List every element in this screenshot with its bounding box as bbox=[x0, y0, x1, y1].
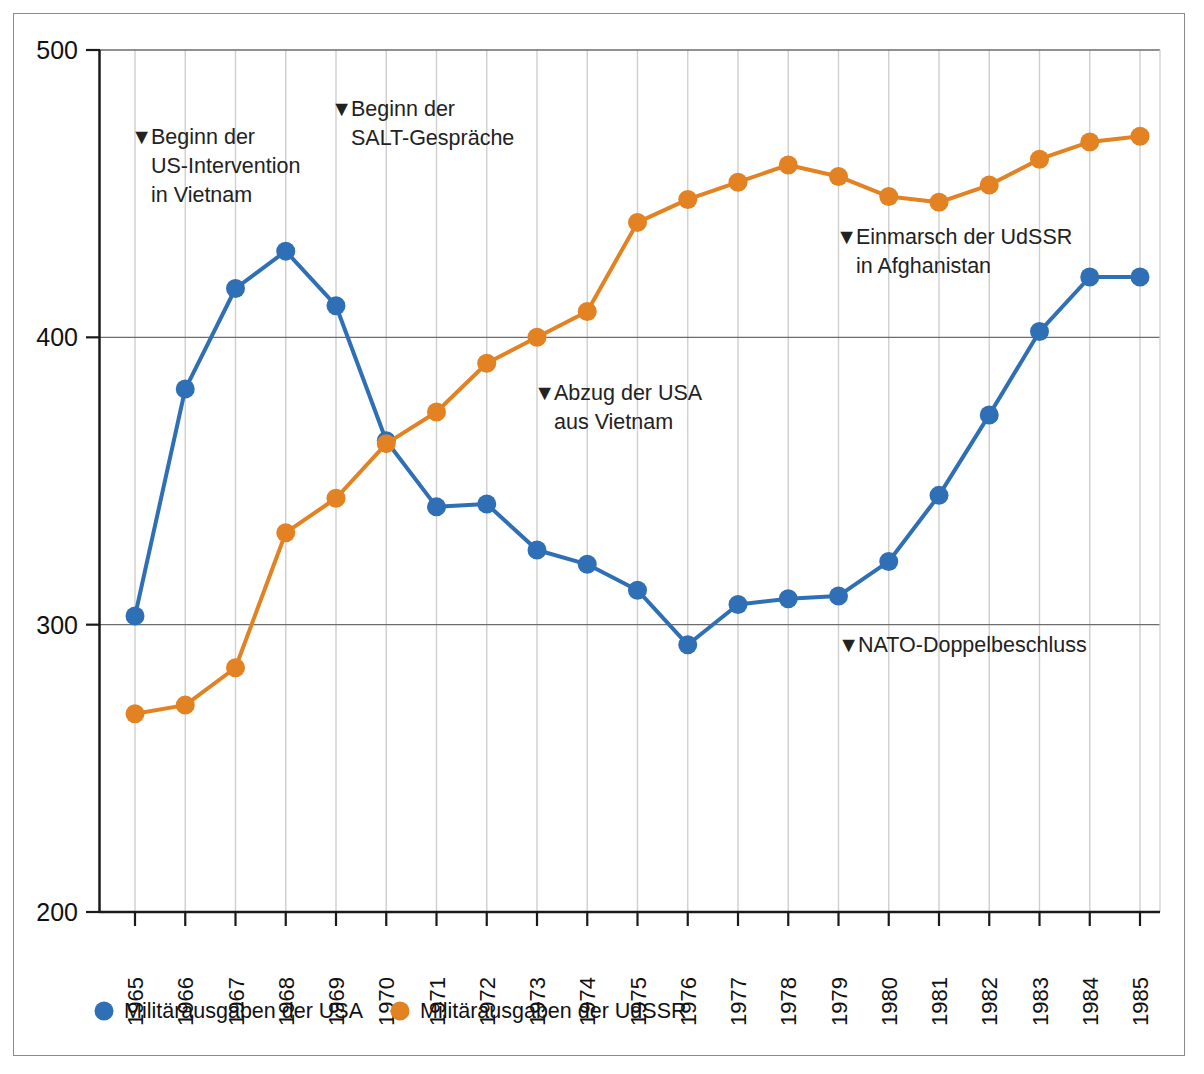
data-point bbox=[427, 403, 446, 422]
data-point bbox=[779, 155, 798, 174]
annotation-line: in Vietnam bbox=[151, 183, 252, 207]
data-point bbox=[126, 607, 145, 626]
data-point bbox=[528, 540, 547, 559]
annotation-line: aus Vietnam bbox=[554, 410, 673, 434]
x-axis-tick-label: 1977 bbox=[726, 977, 751, 1026]
x-axis-tick-label: 1983 bbox=[1028, 977, 1053, 1026]
legend-label: Militärausgaben der USA bbox=[124, 999, 364, 1023]
data-point bbox=[1131, 127, 1150, 146]
chart-page: 200300400500 196519661967196819691970197… bbox=[0, 0, 1204, 1074]
data-point bbox=[377, 434, 396, 453]
x-axis-tick-label: 1980 bbox=[877, 977, 902, 1026]
annotation-line: US-Intervention bbox=[151, 154, 300, 178]
data-point bbox=[1030, 322, 1049, 341]
data-point bbox=[729, 173, 748, 192]
y-axis-tick-label: 200 bbox=[36, 898, 78, 926]
data-point bbox=[1030, 150, 1049, 169]
annot-ussr-afghanistan: ▼Einmarsch der UdSSRin Afghanistan bbox=[836, 225, 1072, 278]
data-point bbox=[879, 552, 898, 571]
data-point bbox=[829, 586, 848, 605]
data-point bbox=[327, 489, 346, 508]
data-point bbox=[578, 302, 597, 321]
data-point bbox=[176, 380, 195, 399]
data-point bbox=[829, 167, 848, 186]
y-axis-ticks bbox=[86, 50, 100, 912]
data-point bbox=[528, 328, 547, 347]
annotation-marker-icon: ▼ bbox=[534, 381, 555, 405]
annotation-marker-icon: ▼ bbox=[131, 125, 152, 149]
annotation-line: Beginn der bbox=[351, 97, 455, 121]
data-point bbox=[276, 523, 295, 542]
x-axis-ticks bbox=[135, 912, 1140, 926]
annotations-layer: ▼Beginn derUS-Interventionin Vietnam▼Beg… bbox=[131, 97, 1087, 657]
y-axis-tick-labels: 200300400500 bbox=[36, 36, 78, 926]
legend-item-usa[interactable]: Militärausgaben der USA bbox=[95, 999, 364, 1023]
legend-item-ussr[interactable]: Militärausgaben der UdSSR bbox=[391, 999, 687, 1023]
x-axis-tick-label: 1982 bbox=[977, 977, 1002, 1026]
annotation-line: Einmarsch der UdSSR bbox=[856, 225, 1072, 249]
legend-label: Militärausgaben der UdSSR bbox=[420, 999, 687, 1023]
annotation-line: SALT-Gespräche bbox=[351, 126, 514, 150]
data-point bbox=[126, 704, 145, 723]
annot-us-withdrawal-vietnam: ▼Abzug der USAaus Vietnam bbox=[534, 381, 703, 434]
y-axis-tick-label: 300 bbox=[36, 611, 78, 639]
data-point bbox=[276, 242, 295, 261]
data-point bbox=[1080, 132, 1099, 151]
x-axis-tick-label: 1981 bbox=[927, 977, 952, 1026]
annotation-line: Abzug der USA bbox=[554, 381, 703, 405]
data-point bbox=[1080, 267, 1099, 286]
data-point bbox=[980, 176, 999, 195]
annotation-marker-icon: ▼ bbox=[838, 633, 859, 657]
data-point bbox=[879, 187, 898, 206]
data-point bbox=[628, 581, 647, 600]
data-point bbox=[226, 279, 245, 298]
x-axis-tick-label: 1978 bbox=[776, 977, 801, 1026]
legend-swatch-icon bbox=[391, 1002, 410, 1021]
annotation-line: Beginn der bbox=[151, 125, 255, 149]
x-axis-tick-label: 1979 bbox=[827, 977, 852, 1026]
data-point bbox=[628, 213, 647, 232]
y-axis-tick-label: 500 bbox=[36, 36, 78, 64]
data-point bbox=[477, 354, 496, 373]
data-point bbox=[930, 193, 949, 212]
data-point bbox=[930, 486, 949, 505]
x-axis-tick-label: 1984 bbox=[1078, 977, 1103, 1026]
legend-swatch-icon bbox=[95, 1002, 114, 1021]
data-point bbox=[1131, 267, 1150, 286]
annotation-marker-icon: ▼ bbox=[836, 225, 857, 249]
data-point bbox=[678, 190, 697, 209]
data-point bbox=[226, 658, 245, 677]
annot-nato-double-track: ▼NATO-Doppelbeschluss bbox=[838, 633, 1087, 657]
annotation-line: NATO-Doppelbeschluss bbox=[858, 633, 1087, 657]
data-point bbox=[779, 589, 798, 608]
annot-us-intervention-vietnam: ▼Beginn derUS-Interventionin Vietnam bbox=[131, 125, 300, 207]
data-point bbox=[980, 405, 999, 424]
data-point bbox=[678, 635, 697, 654]
y-axis-tick-label: 400 bbox=[36, 323, 78, 351]
x-axis-tick-label: 1985 bbox=[1128, 977, 1153, 1026]
data-point bbox=[477, 494, 496, 513]
line-chart: 200300400500 196519661967196819691970197… bbox=[0, 0, 1204, 1074]
data-point bbox=[327, 296, 346, 315]
data-point bbox=[176, 696, 195, 715]
data-point bbox=[578, 555, 597, 574]
data-point bbox=[427, 497, 446, 516]
data-point bbox=[729, 595, 748, 614]
annotation-marker-icon: ▼ bbox=[331, 97, 352, 121]
annotation-line: in Afghanistan bbox=[856, 254, 991, 278]
